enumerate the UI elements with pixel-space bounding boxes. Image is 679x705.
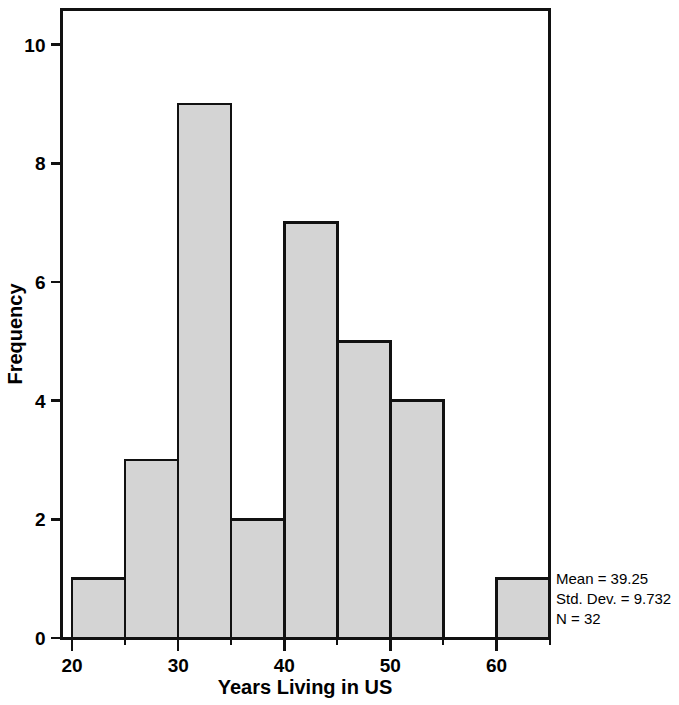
y-tick-label: 8: [35, 153, 46, 174]
histogram-bar: [72, 579, 125, 638]
annotation-std-dev: Std. Dev. = 9.732: [556, 590, 671, 607]
x-axis-title: Years Living in US: [218, 676, 393, 698]
histogram-bar: [284, 223, 337, 638]
histogram-bar: [390, 401, 443, 638]
x-tick-label: 40: [274, 655, 295, 676]
y-tick-label: 2: [35, 509, 46, 530]
x-tick-label: 60: [486, 655, 507, 676]
histogram-chart: 0246810 2030405060 Years Living in US Fr…: [0, 0, 679, 705]
x-tick-label: 30: [168, 655, 189, 676]
chart-canvas: 0246810 2030405060 Years Living in US Fr…: [0, 0, 679, 705]
y-tick-label: 0: [35, 628, 46, 649]
histogram-bar: [337, 341, 390, 638]
histogram-bar: [178, 104, 231, 638]
y-tick-label: 4: [35, 391, 46, 412]
y-tick-label: 6: [35, 272, 46, 293]
histogram-bar: [496, 579, 549, 638]
y-axis-title: Frequency: [4, 283, 26, 385]
x-tick-label: 20: [62, 655, 83, 676]
x-tick-label: 50: [380, 655, 401, 676]
histogram-bar: [125, 460, 178, 638]
y-tick-label: 10: [24, 35, 45, 56]
annotation-n: N = 32: [556, 610, 601, 627]
annotation-mean: Mean = 39.25: [556, 570, 648, 587]
histogram-bar: [231, 519, 284, 638]
